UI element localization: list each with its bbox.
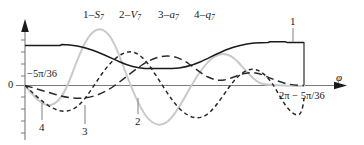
curve-1-s7 — [25, 42, 304, 69]
legend-subscript-2: 7 — [137, 13, 141, 22]
y-axis-ticks — [21, 40, 25, 133]
y-axis-arrow — [21, 19, 29, 32]
right-tick-label: 2π − 5π/36 — [279, 91, 325, 102]
curve-2-v7 — [25, 56, 304, 98]
axis-group — [16, 19, 347, 140]
x-axis-label: φ — [336, 72, 342, 83]
curve-label-3: 3 — [82, 126, 88, 137]
legend-subscript-1: 7 — [100, 13, 104, 22]
legend-entry-4: 4–q7 — [194, 9, 215, 21]
curve-label-2: 2 — [135, 116, 141, 127]
curve-label-4: 4 — [39, 122, 45, 133]
legend-subscript-3: 7 — [175, 13, 179, 22]
origin-label: 0 — [8, 80, 13, 91]
left-tick-label: −5π/36 — [27, 69, 57, 80]
legend-subscript-4: 7 — [211, 13, 215, 22]
legend-entry-1: 1–S7 — [83, 9, 104, 21]
legend-entry-2: 2–V7 — [119, 9, 141, 21]
curve-label-1: 1 — [290, 16, 296, 27]
legend-entry-3: 3–a7 — [158, 9, 179, 21]
